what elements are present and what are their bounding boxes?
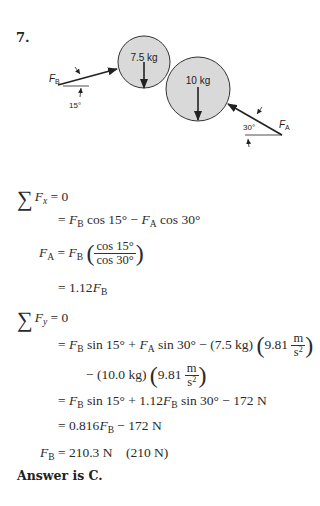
free-body-diagram: 7.5 kg 10 kg FB 15° FA 30° [0,0,320,150]
mass-large-label: 10 kg [186,75,210,86]
force-a-label: FA [279,119,290,131]
equation-sum-fy: ∑Fy = 0 [17,307,68,333]
equation-fy-substituted: = FB sin 15° + 1.12FB sin 30° − 172 N [58,393,267,410]
equation-fa-result: = 1.12FB [58,280,107,297]
answer-text: Answer is C. [17,468,103,483]
equation-fy-simplified: = 0.816FB − 172 N [58,418,162,435]
equation-fy-expanded: = FB sin 15° + FA sin 30° − (7.5 kg) (9.… [58,332,313,359]
equation-fa-ratio: FA = FB (cos 15°cos 30°) [39,240,144,267]
angle-b-tick-top [75,67,80,74]
angle-b-label: 15° [69,101,81,110]
equation-fy-continued: − (10.0 kg) (9.81 ms2) [86,362,207,389]
equation-sum-fx: ∑Fx = 0 [17,186,68,212]
mass-small-label: 7.5 kg [130,52,157,63]
force-b-arrow [58,69,117,85]
equation-fx-expanded: = FB cos 15° − FA cos 30° [58,212,200,229]
angle-a-tick-top [257,107,262,114]
angle-a-tick-bottom [248,139,249,147]
angle-a-label: 30° [243,123,255,132]
force-b-label: FB [49,73,60,85]
equation-fb-result: FB = 210.3 N (210 N) [40,445,168,462]
angle-b-tick-bottom [80,88,81,97]
